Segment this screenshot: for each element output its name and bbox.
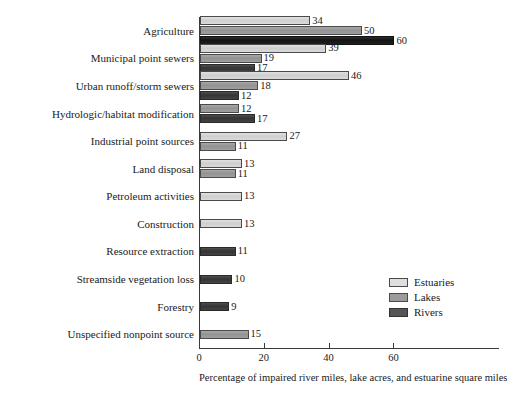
bar-value-label: 50 [364, 26, 375, 37]
bar-value-label: 11 [238, 168, 248, 179]
bar-estuaries: 34 [200, 16, 310, 25]
bar-lakes: 19 [200, 54, 262, 63]
bar-value-label: 34 [312, 16, 323, 27]
bar-estuaries: 46 [200, 71, 349, 80]
chart-category-row: Agriculture345060 [0, 17, 507, 45]
x-axis-title: Percentage of impaired river miles, lake… [199, 372, 499, 383]
legend-swatch-lakes [389, 293, 408, 302]
bar-group: 9 [200, 302, 229, 311]
chart-category-row: Petroleum activities13 [0, 183, 507, 211]
bar-group: 13 [200, 219, 242, 228]
bar-group: 13 [200, 192, 242, 201]
legend-label: Rivers [414, 306, 443, 318]
chart-category-row: Industrial point sources2711 [0, 127, 507, 155]
x-axis-tick-label: 20 [259, 352, 270, 363]
bar-group: 461812 [200, 71, 349, 100]
legend-swatch-estuaries [389, 278, 408, 287]
bar-value-label: 46 [351, 71, 362, 82]
bar-estuaries: 13 [200, 159, 242, 168]
x-axis-tick [329, 343, 330, 349]
bar-value-label: 15 [251, 329, 262, 340]
bar-value-label: 11 [238, 141, 248, 152]
bar-rivers: 11 [200, 247, 236, 256]
bar-estuaries: 13 [200, 192, 242, 201]
category-label: Forestry [157, 301, 194, 313]
x-axis-tick-label: 40 [323, 352, 334, 363]
chart-category-row: Resource extraction11 [0, 238, 507, 266]
legend-item-rivers: Rivers [389, 305, 454, 319]
category-label: Petroleum activities [106, 190, 194, 202]
bar-lakes: 12 [200, 104, 239, 113]
bar-value-label: 11 [238, 246, 248, 257]
category-label: Construction [137, 218, 194, 230]
x-axis-tick-label: 0 [196, 352, 201, 363]
category-label: Unspecified nonpoint source [68, 328, 194, 340]
bar-value-label: 17 [257, 113, 268, 124]
bar-value-label: 12 [241, 103, 252, 114]
chart-rows: Agriculture345060Municipal point sewers3… [0, 0, 507, 405]
legend-item-lakes: Lakes [389, 290, 454, 304]
x-axis-tick [264, 343, 265, 349]
chart-category-row: Construction13 [0, 210, 507, 238]
y-axis-line [199, 17, 200, 348]
legend-item-estuaries: Estuaries [389, 275, 454, 289]
bar-lakes: 15 [200, 330, 249, 339]
category-label: Hydrologic/habitat modification [52, 108, 194, 120]
bar-group: 10 [200, 275, 232, 284]
legend-label: Estuaries [414, 276, 454, 288]
bar-group: 1217 [200, 104, 255, 123]
bar-chart: Agriculture345060Municipal point sewers3… [0, 0, 507, 405]
bar-group: 391917 [200, 44, 326, 73]
bar-value-label: 13 [244, 191, 255, 202]
category-label: Municipal point sewers [91, 52, 194, 64]
bar-lakes: 11 [200, 142, 236, 151]
chart-category-row: Hydrologic/habitat modification1217 [0, 100, 507, 128]
category-label: Urban runoff/storm sewers [76, 80, 194, 92]
chart-category-row: Unspecified nonpoint source15 [0, 320, 507, 348]
bar-estuaries: 13 [200, 219, 242, 228]
category-label: Land disposal [133, 163, 194, 175]
bar-value-label: 18 [260, 81, 271, 92]
bar-rivers: 17 [200, 114, 255, 123]
bar-value-label: 13 [244, 219, 255, 230]
category-label: Resource extraction [106, 245, 194, 257]
chart-category-row: Land disposal1311 [0, 155, 507, 183]
bar-rivers: 9 [200, 302, 229, 311]
bar-group: 1311 [200, 159, 242, 178]
category-label: Agriculture [143, 25, 194, 37]
category-label: Industrial point sources [91, 135, 194, 147]
category-label: Streamside vegetation loss [77, 273, 194, 285]
legend-swatch-rivers [389, 308, 408, 317]
bar-lakes: 11 [200, 169, 236, 178]
chart-legend: EstuariesLakesRivers [389, 275, 454, 320]
bar-rivers: 10 [200, 275, 232, 284]
bar-lakes: 50 [200, 26, 362, 35]
bar-group: 345060 [200, 16, 394, 45]
x-axis-tick [393, 343, 394, 349]
chart-category-row: Municipal point sewers391917 [0, 45, 507, 73]
bar-group: 2711 [200, 132, 287, 151]
bar-group: 15 [200, 330, 249, 339]
bar-value-label: 10 [234, 274, 245, 285]
x-axis-line [199, 348, 499, 349]
chart-category-row: Urban runoff/storm sewers461812 [0, 72, 507, 100]
bar-value-label: 9 [231, 301, 236, 312]
bar-value-label: 27 [289, 131, 300, 142]
bar-value-label: 39 [328, 43, 339, 54]
x-axis-tick-label: 60 [388, 352, 399, 363]
bar-group: 11 [200, 247, 236, 256]
legend-label: Lakes [414, 291, 440, 303]
